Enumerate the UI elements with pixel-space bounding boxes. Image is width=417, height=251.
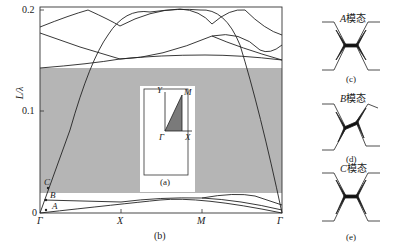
mode-b-shape xyxy=(322,104,380,150)
marker-a: A xyxy=(52,202,58,211)
inset-x-label: X xyxy=(185,133,191,142)
mode-a-shape xyxy=(322,22,380,70)
inset-m-label: M xyxy=(184,88,192,97)
dispersion-figure xyxy=(0,0,417,251)
mode-c-shape xyxy=(322,173,380,221)
mode-a-title: A模态 xyxy=(340,10,366,25)
inset-y-label: Y xyxy=(157,86,162,95)
marker-b: B xyxy=(50,191,56,200)
y-tick-0-2: 0.2 xyxy=(22,5,35,15)
panel-e-caption: (e) xyxy=(346,232,356,242)
y-tick-0-1: 0.1 xyxy=(22,106,35,116)
x-tick-gamma-start: Γ xyxy=(37,216,43,226)
x-tick-x: X xyxy=(117,216,123,226)
marker-c: C xyxy=(44,178,50,187)
inset-gamma-label: Γ xyxy=(159,133,164,142)
x-tick-gamma-end: Γ xyxy=(277,216,283,226)
mode-b-title: B模态 xyxy=(340,90,366,105)
panel-c-caption: (c) xyxy=(346,74,356,84)
mode-shapes xyxy=(322,22,380,221)
panel-b-caption: (b) xyxy=(154,231,166,241)
y-axis-label: L/λ xyxy=(15,87,25,100)
panel-a-caption: (a) xyxy=(160,178,170,187)
mode-c-title: C模态 xyxy=(340,160,367,175)
x-tick-m: M xyxy=(197,216,205,226)
